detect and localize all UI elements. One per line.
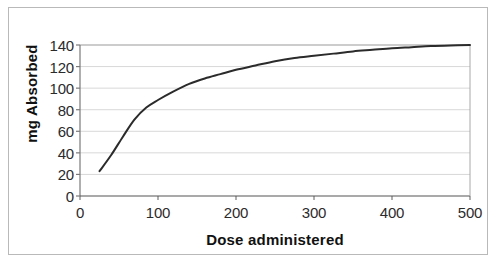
x-axis-tick-labels: 0100200300400500 — [0, 0, 497, 264]
x-tick-label: 300 — [284, 205, 344, 220]
x-tick-label: 0 — [50, 205, 110, 220]
x-tick-label: 200 — [206, 205, 266, 220]
y-axis-title: mg Absorbed — [23, 14, 40, 174]
x-tick-label: 500 — [440, 205, 497, 220]
x-tick-label: 100 — [128, 205, 188, 220]
x-tick-label: 400 — [362, 205, 422, 220]
x-axis-title: Dose administered — [80, 231, 470, 248]
